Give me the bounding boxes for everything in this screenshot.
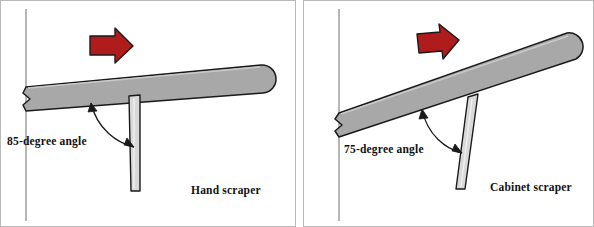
caption-cabinet-scraper: Cabinet scraper <box>490 181 572 193</box>
caption-hand-scraper: Hand scraper <box>191 184 261 196</box>
angle-label-hand-scraper: 85-degree angle <box>7 135 87 147</box>
scraper-angle-figure: 85-degree angle Hand scraper 75-degree a… <box>0 0 594 227</box>
panel-cabinet-scraper: 75-degree angle Cabinet scraper <box>303 0 594 227</box>
blade-highlight <box>341 36 568 114</box>
motion-arrow-right <box>90 28 133 63</box>
motion-arrow-right <box>417 24 459 59</box>
panel-divider-gap <box>296 0 303 227</box>
angle-arc-head-lower <box>452 144 462 153</box>
panel-hand-scraper: 85-degree angle Hand scraper <box>0 0 296 227</box>
cabinet-scraper-diagram <box>304 1 594 227</box>
workpiece-blade <box>23 65 276 111</box>
angle-label-cabinet-scraper: 75-degree angle <box>344 143 424 155</box>
workpiece-blade <box>335 33 583 137</box>
